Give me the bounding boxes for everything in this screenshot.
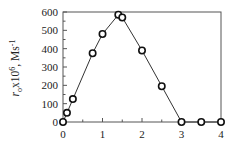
data-point <box>198 119 204 125</box>
y-tick-label: 0 <box>53 116 59 128</box>
y-tick-label: 500 <box>42 24 59 36</box>
y-tick-label: 100 <box>42 98 59 110</box>
data-point <box>139 47 145 53</box>
data-point <box>64 110 70 116</box>
x-tick-label: 2 <box>139 128 145 140</box>
y-tick-label: 600 <box>42 6 59 18</box>
data-markers <box>60 12 224 126</box>
x-tick-label: 1 <box>100 128 106 140</box>
line-chart: 0100200300400500600 01234 rox106, Ms-1 <box>0 0 235 150</box>
data-point <box>218 119 224 125</box>
y-tick-label: 400 <box>42 43 59 55</box>
data-point <box>89 50 95 56</box>
y-axis-label: rox106, Ms-1 <box>8 40 24 97</box>
data-point <box>60 119 66 125</box>
data-point <box>159 83 165 89</box>
data-point <box>178 119 184 125</box>
x-tick-label: 4 <box>218 128 224 140</box>
x-tick-label: 0 <box>60 128 66 140</box>
data-point <box>119 14 125 20</box>
data-point <box>99 31 105 37</box>
data-point <box>70 96 76 102</box>
series-line <box>63 15 221 122</box>
y-tick-label: 200 <box>42 79 59 91</box>
y-tick-label: 300 <box>42 61 59 73</box>
x-tick-label: 3 <box>179 128 185 140</box>
